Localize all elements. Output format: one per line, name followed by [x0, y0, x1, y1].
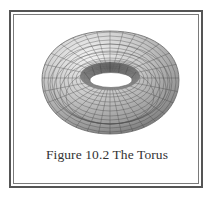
torus-illustration — [0, 0, 214, 197]
figure-caption: Figure 10.2 The Torus — [0, 147, 214, 163]
torus-hole — [90, 73, 132, 88]
